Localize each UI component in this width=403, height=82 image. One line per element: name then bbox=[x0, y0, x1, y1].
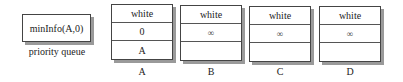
priority-queue-box: minInfo(A,0) bbox=[22, 14, 91, 42]
vertex-parent bbox=[181, 42, 241, 60]
vertex-label-d: D bbox=[319, 66, 381, 77]
vertex-color: white bbox=[250, 7, 310, 25]
vertex-label-b: B bbox=[180, 66, 242, 77]
vertex-parent: A bbox=[112, 41, 172, 59]
vertex-color: white bbox=[112, 5, 172, 23]
vertex-color: white bbox=[181, 6, 241, 24]
vertex-parent bbox=[250, 43, 310, 61]
vertex-box-a: white 0 A bbox=[111, 4, 173, 60]
vertex-distance: ∞ bbox=[250, 25, 310, 43]
vertex-box-d: white ∞ bbox=[319, 6, 381, 62]
priority-queue-label: priority queue bbox=[14, 46, 100, 57]
priority-queue-entry: minInfo(A,0) bbox=[30, 23, 84, 34]
vertex-distance: 0 bbox=[112, 23, 172, 41]
vertex-parent bbox=[320, 43, 380, 61]
vertex-box-c: white ∞ bbox=[249, 6, 311, 62]
vertex-label-a: A bbox=[111, 66, 173, 77]
vertex-color: white bbox=[320, 7, 380, 25]
vertex-label-c: C bbox=[249, 66, 311, 77]
vertex-distance: ∞ bbox=[320, 25, 380, 43]
vertex-box-b: white ∞ bbox=[180, 5, 242, 61]
vertex-distance: ∞ bbox=[181, 24, 241, 42]
